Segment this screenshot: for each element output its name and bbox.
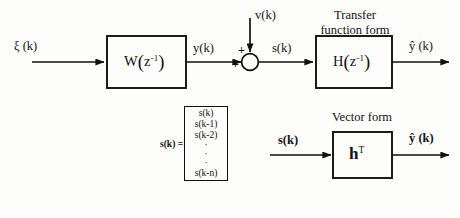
transfer-function-form-caption: Transfer function form bbox=[305, 8, 405, 38]
bottom-output-label: ŷ (k) bbox=[409, 132, 434, 145]
W-block-label: W(z-1) bbox=[124, 52, 165, 71]
H-block-exponent: -1 bbox=[356, 53, 364, 63]
W-block-symbol: W bbox=[124, 53, 138, 69]
state-vector-element: s(k-n) bbox=[195, 168, 218, 179]
H-block-label: H(z-1) bbox=[333, 52, 370, 71]
W-block-argument: (z-1) bbox=[138, 52, 165, 71]
H-block-argument: (z-1) bbox=[344, 52, 371, 71]
summing-junction-plus-left: + bbox=[232, 58, 239, 71]
vector-form-caption: Vector form bbox=[312, 110, 412, 125]
summing-junction-plus-top: + bbox=[238, 44, 245, 57]
state-vector-lhs: s(k) = bbox=[160, 139, 184, 149]
vector-input-label: s(k) bbox=[278, 134, 298, 147]
input-signal-label: ξ (k) bbox=[14, 40, 37, 53]
right-paren-glyph: ) bbox=[364, 51, 370, 72]
H-block-symbol: H bbox=[333, 53, 344, 69]
state-vector-ellipsis-dot: · bbox=[205, 159, 208, 168]
transfer-caption-line1: Transfer bbox=[305, 8, 405, 23]
w-output-label: y(k) bbox=[193, 42, 214, 55]
h-transpose-block-label: hT bbox=[349, 145, 365, 163]
state-vector-definition: s(k) = s(k) s(k-1) s(k-2) · · · s(k-n) bbox=[160, 106, 228, 181]
state-vector-element: s(k) bbox=[199, 108, 214, 119]
block-diagram-canvas: ξ (k) W(z-1) y(k) v(k) + + s(k) Transfer… bbox=[0, 0, 460, 218]
h-transpose-symbol: h bbox=[349, 144, 359, 163]
state-vector-bracket: s(k) s(k-1) s(k-2) · · · s(k-n) bbox=[184, 106, 228, 181]
right-paren-glyph: ) bbox=[158, 51, 164, 72]
transfer-caption-line2: function form bbox=[305, 23, 405, 38]
state-vector-element: s(k-1) bbox=[195, 119, 218, 130]
disturbance-label: v(k) bbox=[255, 9, 276, 22]
sum-output-label: s(k) bbox=[272, 42, 291, 55]
top-output-label: ŷ (k) bbox=[409, 40, 433, 53]
h-transpose-exponent: T bbox=[359, 144, 365, 155]
